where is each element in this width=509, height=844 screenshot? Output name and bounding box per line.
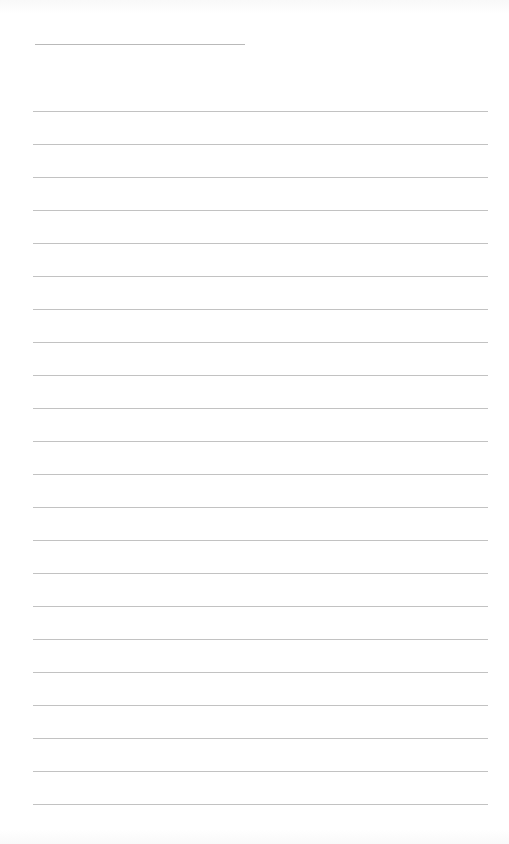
ruled-line: [33, 342, 488, 343]
title-line: [35, 44, 245, 45]
ruled-line: [33, 276, 488, 277]
ruled-line: [33, 771, 488, 772]
ruled-line: [33, 408, 488, 409]
ruled-line: [33, 243, 488, 244]
ruled-line: [33, 210, 488, 211]
ruled-line: [33, 111, 488, 112]
ruled-line: [33, 177, 488, 178]
ruled-line: [33, 441, 488, 442]
ruled-line: [33, 474, 488, 475]
ruled-line: [33, 540, 488, 541]
ruled-line: [33, 144, 488, 145]
ruled-line: [33, 639, 488, 640]
ruled-line: [33, 705, 488, 706]
ruled-line: [33, 375, 488, 376]
ruled-line: [33, 804, 488, 805]
ruled-line: [33, 606, 488, 607]
scan-ghost-bottom: [0, 830, 509, 844]
ruled-line: [33, 738, 488, 739]
ruled-line: [33, 309, 488, 310]
ruled-line: [33, 573, 488, 574]
scan-ghost-top: [0, 0, 509, 14]
ruled-line: [33, 672, 488, 673]
ruled-line: [33, 507, 488, 508]
